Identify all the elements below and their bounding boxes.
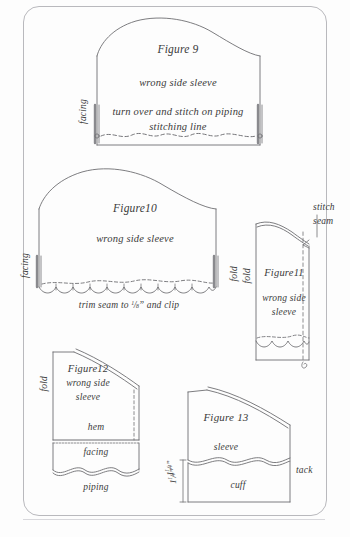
figure-9-line-wrong-side-sleeve: wrong side sleeve <box>139 77 217 88</box>
figure-12-measurement-unit: ” <box>165 460 175 465</box>
figure-10-line-wrong-side-sleeve: wrong side sleeve <box>96 233 174 244</box>
figure-10-caption-fraction: 1/8 <box>131 300 138 310</box>
figure-10-edge-label-facing: facing <box>21 253 31 278</box>
figure-10-caption-suffix: ” and clip <box>139 300 180 310</box>
figure-13-annotation-tack: tack <box>296 466 313 476</box>
figure-12-measurement-fraction-denominator: 4 <box>167 465 173 467</box>
figure-9-line-stitching-line: stitching line <box>149 121 206 132</box>
figure-9-edge-label-facing: facing <box>79 99 89 124</box>
figure-10-title: Figure10 <box>113 202 157 214</box>
figure-10-shape <box>37 169 218 293</box>
figure-13-measurement-unit: ” <box>168 468 178 473</box>
figure-11-shape <box>256 215 317 368</box>
figure-12-part-piping: piping <box>83 483 108 493</box>
figure-13-part-cuff: cuff <box>230 481 245 491</box>
figure-10-caption-fraction-numerator: 1 <box>131 300 134 306</box>
figure-13-measurement-fraction: 1/4 <box>168 473 178 479</box>
figure-11-line-wrong-side: wrong side <box>262 294 306 304</box>
figure-13-part-sleeve: sleeve <box>214 443 238 453</box>
figure-11-title: Figure11 <box>264 267 304 278</box>
figure-10-edge-label-fold: fold <box>230 266 240 282</box>
scanned-page: Figure 9 wrong side sleeve turn over and… <box>0 0 350 537</box>
figure-12-edge-label-fold: fold <box>40 376 50 392</box>
figure-12-title: Figure12 <box>68 363 108 374</box>
figure-13-measurement-fraction-denominator: 4 <box>170 473 176 475</box>
figure-9-line-turn-over-and-stitch-on-piping: turn over and stitch on piping <box>112 106 243 117</box>
figure-10-caption-trim-seam: trim seam to 1/8” and clip <box>79 300 179 311</box>
figure-12-part-facing: facing <box>84 448 109 458</box>
figure-13-title: Figure 13 <box>203 412 248 424</box>
figure-11-annotation-stitch: stitch <box>313 203 335 213</box>
figure-13-measurement-cuff-depth: 11/4” <box>168 468 178 484</box>
figure-12-part-hem: hem <box>88 423 104 433</box>
figure-11-annotation-seam: seam <box>313 217 333 227</box>
figure-13-measurement-fraction-numerator: 1 <box>167 477 173 479</box>
figure-10-caption-prefix: trim seam to <box>79 300 131 310</box>
figure-12-line-wrong-side: wrong side <box>66 379 110 389</box>
figure-13-measurement-whole: 1 <box>168 479 178 483</box>
figure-9-title: Figure 9 <box>157 43 198 55</box>
figure-12-line-sleeve: sleeve <box>76 393 100 403</box>
figure-11-edge-label-fold: fold <box>243 268 253 284</box>
figure-11-line-sleeve: sleeve <box>272 308 296 318</box>
